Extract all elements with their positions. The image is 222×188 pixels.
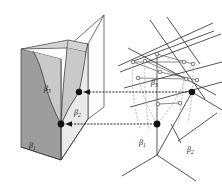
open-node-9 bbox=[195, 78, 199, 82]
inner-edge-7 bbox=[145, 61, 186, 79]
dashed-arc-1 bbox=[132, 62, 140, 128]
right-label-beta1: β1 bbox=[138, 138, 146, 148]
arr-line-13 bbox=[122, 155, 157, 176]
left-node-upper bbox=[76, 89, 82, 95]
figure-canvas: β3 β2 β1 bbox=[0, 0, 222, 188]
right-panel-group: β3 β1 β2 bbox=[118, 17, 222, 181]
open-node-3 bbox=[182, 60, 186, 64]
arr-line-10 bbox=[192, 92, 222, 110]
inner-edge-2 bbox=[138, 78, 186, 79]
arr-line-14 bbox=[157, 155, 196, 181]
open-node-1 bbox=[131, 60, 135, 64]
open-node-7 bbox=[158, 70, 162, 74]
open-node-2 bbox=[155, 52, 159, 56]
top-strip-face bbox=[21, 40, 88, 52]
back-plane-face bbox=[88, 15, 104, 119]
figure-container: β3 β2 β1 bbox=[0, 0, 222, 188]
arr-line-7 bbox=[128, 48, 216, 95]
dashed-arc-2 bbox=[145, 61, 149, 130]
right-label-beta2: β2 bbox=[186, 145, 194, 155]
arr-line-8 bbox=[131, 31, 214, 62]
open-node-4 bbox=[143, 59, 147, 63]
open-node-10 bbox=[156, 102, 160, 106]
left-panel-group: β3 β2 β1 bbox=[21, 15, 104, 160]
open-node-11 bbox=[178, 101, 182, 105]
arr-line-16 bbox=[171, 124, 181, 143]
open-node-8 bbox=[184, 77, 188, 81]
inner-edge-3 bbox=[158, 103, 180, 104]
left-node-lower bbox=[58, 121, 65, 128]
inner-edge-6 bbox=[133, 62, 160, 72]
open-node-6 bbox=[136, 76, 140, 80]
arr-line-15 bbox=[178, 113, 217, 141]
arr-line-6 bbox=[167, 17, 200, 64]
open-node-5 bbox=[191, 62, 195, 66]
arr-line-2 bbox=[118, 23, 213, 66]
